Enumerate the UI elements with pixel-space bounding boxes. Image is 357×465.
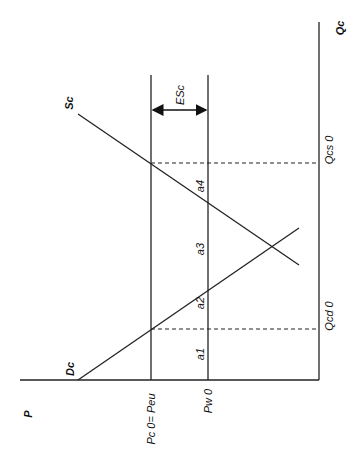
area-a4-label: a4 [194, 180, 206, 192]
supply-curve-label: Sc [63, 96, 75, 109]
pw0-label: Pw 0 [202, 388, 214, 413]
export-subsidy-label: ESc [174, 84, 186, 105]
demand-curve [78, 228, 299, 380]
qcd0-label: Qcd 0 [323, 300, 335, 330]
quantity-axis-label: Qc [334, 21, 346, 36]
price-axis-label: P [22, 410, 34, 418]
area-a1-label: a1 [194, 348, 206, 360]
qcs0-label: Qcs 0 [323, 135, 335, 165]
demand-curve-label: Dc [64, 362, 76, 376]
supply-curve [78, 114, 299, 265]
economics-diagram: Qc P Sc Dc ESc a4 a3 a2 a1 Qcs 0 Qcd 0 P… [0, 0, 357, 465]
pc0-peu-label: Pc 0= Peu [145, 393, 157, 444]
area-a2-label: a2 [194, 297, 206, 309]
area-a3-label: a3 [194, 242, 206, 255]
